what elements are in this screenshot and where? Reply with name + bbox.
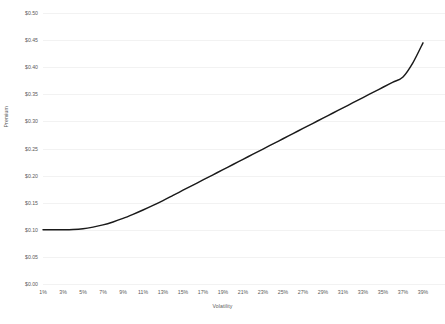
plot-area <box>43 13 423 284</box>
x-axis-title: Volatility <box>0 303 445 309</box>
chart-container: $0.00$0.05$0.10$0.15$0.20$0.25$0.30$0.35… <box>0 0 445 324</box>
y-axis-title: Premium <box>3 106 9 146</box>
